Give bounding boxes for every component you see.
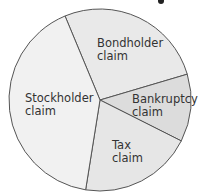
pie-chart: BondholderclaimBankruptcyclaimTaxclaimSt… <box>0 0 201 195</box>
pie-chart-svg: BondholderclaimBankruptcyclaimTaxclaimSt… <box>0 0 201 195</box>
